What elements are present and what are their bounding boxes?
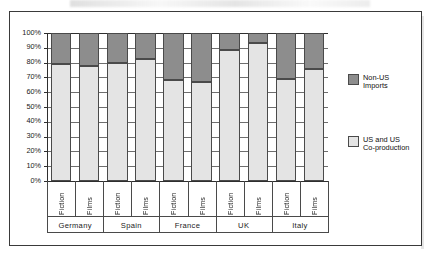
group-label-italy: Italy (272, 221, 328, 230)
bar-segment-non-us-imports (219, 33, 240, 50)
bar-germany-films (79, 33, 100, 181)
bar-segment-us-and-us-co-production (304, 69, 325, 181)
bar-segment-us-and-us-co-production (219, 50, 240, 181)
axis-separator-tick-8 (272, 181, 273, 216)
ytick-label-20: 20% (10, 147, 41, 155)
figure-frame: 100%90%80%70%60%50%40%30%20%10%0%Fiction… (9, 11, 422, 246)
category-label-fiction-0: Fiction (57, 185, 66, 215)
bar-segment-us-and-us-co-production (135, 59, 156, 181)
bar-segment-us-and-us-co-production (51, 64, 72, 181)
bar-segment-non-us-imports (248, 33, 269, 43)
scan-artifact (70, 0, 370, 7)
legend-label-line2: Co-production (363, 144, 409, 153)
axis-separator-tick-7 (244, 181, 245, 216)
axis-separator-tick-10 (328, 181, 329, 216)
group-label-france: France (159, 221, 215, 230)
chart-plot-area: 100%90%80%70%60%50%40%30%20%10%0%Fiction… (10, 12, 423, 247)
bar-segment-non-us-imports (51, 33, 72, 64)
category-label-films-7: Films (254, 185, 263, 215)
ytick-label-80: 80% (10, 58, 41, 66)
ytick-label-10: 10% (10, 162, 41, 170)
bar-segment-non-us-imports (304, 33, 325, 69)
bar-spain-fiction (107, 33, 128, 181)
axis-separator-tick-1 (75, 181, 76, 216)
ytick-label-100: 100% (10, 29, 41, 37)
bar-italy-films (304, 33, 325, 181)
bar-segment-non-us-imports (191, 33, 212, 82)
axis-group-separator-5 (328, 216, 329, 232)
axis-band-bottomline (47, 232, 329, 233)
ytick-label-40: 40% (10, 117, 41, 125)
category-label-films-5: Films (198, 185, 207, 215)
category-label-fiction-8: Fiction (282, 185, 291, 215)
bar-uk-films (248, 33, 269, 181)
bar-segment-us-and-us-co-production (163, 80, 184, 181)
bar-spain-films (135, 33, 156, 181)
legend-label-line2: Imports (363, 82, 389, 91)
axis-separator-tick-0 (47, 181, 48, 216)
group-label-spain: Spain (103, 221, 159, 230)
category-label-fiction-4: Fiction (169, 185, 178, 215)
ytick-label-70: 70% (10, 73, 41, 81)
bar-segment-us-and-us-co-production (107, 63, 128, 181)
bar-segment-non-us-imports (79, 33, 100, 66)
y-axis (47, 33, 48, 182)
ytick-label-0: 0% (10, 177, 41, 185)
axis-separator-tick-2 (103, 181, 104, 216)
axis-band-midline (47, 216, 329, 217)
category-label-films-1: Films (85, 185, 94, 215)
bar-segment-non-us-imports (107, 33, 128, 63)
legend-swatch-non-us-imports (348, 74, 359, 85)
bar-segment-us-and-us-co-production (248, 43, 269, 181)
axis-separator-tick-6 (216, 181, 217, 216)
bar-uk-fiction (219, 33, 240, 181)
axis-separator-tick-4 (159, 181, 160, 216)
bar-segment-us-and-us-co-production (79, 66, 100, 181)
bar-france-fiction (163, 33, 184, 181)
ytick-label-60: 60% (10, 88, 41, 96)
bar-italy-fiction (276, 33, 297, 181)
bar-segment-non-us-imports (163, 33, 184, 80)
category-label-films-9: Films (310, 185, 319, 215)
ytick-label-30: 30% (10, 132, 41, 140)
group-label-germany: Germany (47, 221, 103, 230)
bar-france-films (191, 33, 212, 181)
group-label-uk: UK (216, 221, 272, 230)
ytick-label-50: 50% (10, 103, 41, 111)
axis-separator-tick-9 (300, 181, 301, 216)
category-label-fiction-6: Fiction (226, 185, 235, 215)
legend-label-us-and-us-co-production: US and USCo-production (363, 136, 409, 153)
category-label-fiction-2: Fiction (113, 185, 122, 215)
legend-swatch-us-and-us-co-production (348, 136, 359, 147)
axis-separator-tick-3 (131, 181, 132, 216)
bar-segment-non-us-imports (276, 33, 297, 79)
legend-label-non-us-imports: Non-USImports (363, 74, 389, 91)
axis-separator-tick-5 (188, 181, 189, 216)
bar-segment-us-and-us-co-production (276, 79, 297, 181)
bar-germany-fiction (51, 33, 72, 181)
bar-segment-non-us-imports (135, 33, 156, 59)
ytick-label-90: 90% (10, 43, 41, 51)
bar-segment-us-and-us-co-production (191, 82, 212, 181)
category-label-films-3: Films (141, 185, 150, 215)
